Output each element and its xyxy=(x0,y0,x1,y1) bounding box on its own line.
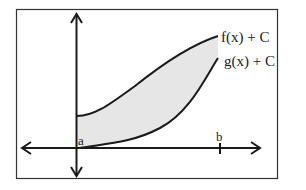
point-b-label: b xyxy=(216,130,223,143)
upper-curve-label: f(x) + C xyxy=(221,30,269,45)
lower-curve-label: g(x) + C xyxy=(224,54,275,69)
diagram-canvas: f(x) + C g(x) + C a b xyxy=(0,0,306,190)
point-a-label: a xyxy=(78,134,84,147)
